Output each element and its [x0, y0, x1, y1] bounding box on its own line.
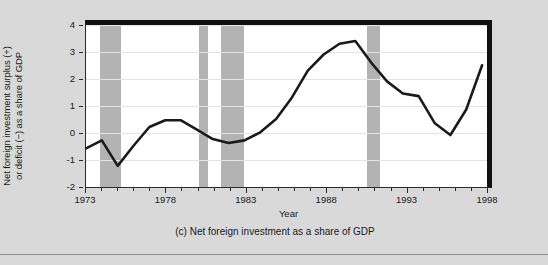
- x-tick-label: 1988: [306, 194, 346, 205]
- footer-divider: [0, 254, 548, 255]
- x-tick-mark-minor: [214, 188, 215, 191]
- y-axis-title-line1: Net foreign investment surplus (+): [1, 46, 13, 185]
- y-tick-mark: [79, 133, 83, 134]
- y-axis-ticks: 43210-1-2: [58, 20, 83, 188]
- x-tick-mark-minor: [358, 188, 359, 191]
- x-tick-label: 1993: [387, 194, 427, 205]
- x-tick-mark-minor: [133, 188, 134, 191]
- y-tick-mark: [79, 52, 83, 53]
- x-tick-mark-major: [487, 188, 488, 193]
- x-tick-mark-minor: [391, 188, 392, 191]
- y-tick-label: 0: [53, 127, 75, 138]
- plot-area: [85, 20, 492, 188]
- y-tick-mark: [79, 106, 83, 107]
- x-tick-mark-minor: [471, 188, 472, 191]
- series-polyline: [86, 41, 482, 166]
- x-tick-mark-major: [407, 188, 408, 193]
- data-series-line: [86, 25, 487, 187]
- x-tick-mark-minor: [455, 188, 456, 191]
- y-tick-label: 3: [53, 46, 75, 57]
- x-tick-mark-minor: [294, 188, 295, 191]
- x-tick-mark-minor: [117, 188, 118, 191]
- x-tick-mark-minor: [262, 188, 263, 191]
- y-tick-mark: [79, 25, 83, 26]
- x-tick-mark-major: [85, 188, 86, 193]
- x-tick-mark-minor: [230, 188, 231, 191]
- x-tick-mark-minor: [423, 188, 424, 191]
- x-tick-mark-minor: [310, 188, 311, 191]
- x-tick-label: 1973: [65, 194, 105, 205]
- x-axis-title: Year: [85, 208, 492, 219]
- x-tick-label: 1998: [467, 194, 507, 205]
- y-tick-label: -1: [53, 154, 75, 165]
- x-tick-mark-minor: [198, 188, 199, 191]
- x-tick-mark-major: [326, 188, 327, 193]
- x-tick-label: 1978: [145, 194, 185, 205]
- y-axis-title: Net foreign investment surplus (+) or de…: [0, 16, 26, 216]
- y-tick-label: -2: [53, 181, 75, 192]
- y-tick-mark: [79, 160, 83, 161]
- x-tick-mark-minor: [278, 188, 279, 191]
- y-tick-mark: [79, 187, 83, 188]
- x-tick-mark-minor: [439, 188, 440, 191]
- x-tick-mark-minor: [342, 188, 343, 191]
- x-tick-mark-minor: [374, 188, 375, 191]
- x-tick-mark-major: [165, 188, 166, 193]
- x-tick-mark-minor: [181, 188, 182, 191]
- x-tick-label: 1983: [226, 194, 266, 205]
- y-tick-mark: [79, 79, 83, 80]
- y-tick-label: 2: [53, 73, 75, 84]
- x-tick-mark-minor: [101, 188, 102, 191]
- y-tick-label: 4: [53, 19, 75, 30]
- y-axis-title-line2: or deficit (−) as a share of GDP: [13, 52, 25, 180]
- y-tick-label: 1: [53, 100, 75, 111]
- plot-inner: [86, 25, 487, 187]
- x-tick-mark-major: [246, 188, 247, 193]
- figure-panel: Net foreign investment surplus (+) or de…: [0, 0, 548, 265]
- figure-caption: (c) Net foreign investment as a share of…: [40, 226, 510, 237]
- x-tick-mark-minor: [149, 188, 150, 191]
